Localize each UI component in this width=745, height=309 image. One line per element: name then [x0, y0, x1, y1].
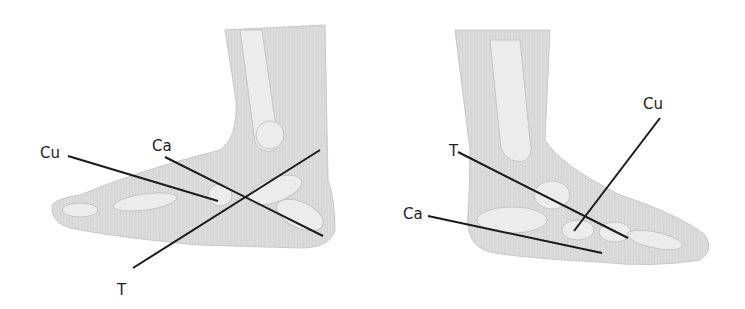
label-ca-left: Ca: [152, 137, 172, 155]
label-t-right: T: [449, 142, 458, 160]
left-foot-illustration: [52, 0, 340, 268]
label-cu-left: Cu: [40, 144, 60, 162]
label-ca-right: Ca: [403, 205, 423, 223]
label-t-left: T: [117, 281, 126, 299]
right-foot-illustration: [428, 0, 709, 265]
foot-diagram: [0, 0, 745, 309]
label-cu-right: Cu: [643, 95, 663, 113]
